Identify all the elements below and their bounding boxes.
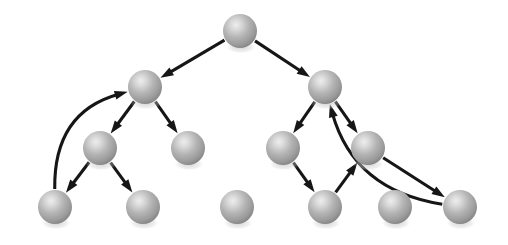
graph-node-left-outer[interactable] <box>171 131 205 165</box>
graph-canvas <box>0 0 508 245</box>
graph-node-root[interactable] <box>223 14 257 48</box>
graph-node-leaf-3-isolated[interactable] <box>220 190 254 224</box>
graph-node-leaf-4[interactable] <box>308 190 342 224</box>
edge-line <box>169 40 225 73</box>
edge-line <box>255 41 302 72</box>
edge-line <box>336 170 352 192</box>
graph-node-leaf-6[interactable] <box>443 190 477 224</box>
graph-node-right-outer[interactable] <box>351 131 385 165</box>
arrow-head-icon <box>431 186 444 197</box>
edge-n10-to-n6 <box>336 170 352 192</box>
edge-n0-to-n2 <box>255 41 302 72</box>
edge-n0-to-n1 <box>169 40 225 73</box>
nodes-layer <box>38 14 477 224</box>
edges-layer <box>55 40 445 204</box>
graph-node-right-child[interactable] <box>308 70 342 104</box>
graph-node-leaf-2[interactable] <box>126 190 160 224</box>
graph-node-leaf-1[interactable] <box>38 190 72 224</box>
graph-node-leaf-5-isolated[interactable] <box>378 190 412 224</box>
graph-diagram <box>0 0 508 245</box>
arrow-head-icon <box>114 91 128 100</box>
graph-node-left-child[interactable] <box>128 70 162 104</box>
graph-node-right-inner[interactable] <box>266 131 300 165</box>
arrow-head-icon <box>161 67 174 77</box>
graph-node-left-inner[interactable] <box>83 131 117 165</box>
